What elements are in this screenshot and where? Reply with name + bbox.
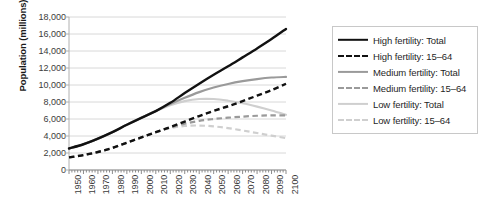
x-axis-tick-label: 2030	[188, 175, 198, 194]
x-axis-tick-label: 2100	[290, 175, 300, 194]
legend-item[interactable]: Low fertility: 15–64	[338, 112, 473, 128]
x-axis-tick-label: 2080	[261, 175, 271, 194]
x-axis-tick-label: 2040	[203, 175, 213, 194]
x-axis-tick-label: 2000	[145, 175, 155, 194]
legend-swatch-icon	[338, 98, 368, 110]
legend-swatch-icon	[338, 82, 368, 94]
x-axis-tick-label: 1970	[101, 175, 111, 194]
legend-item-label: Medium fertility: 15–64	[373, 83, 466, 94]
legend-item-label: High fertility: Total	[373, 35, 446, 46]
legend-item[interactable]: Medium fertility: 15–64	[338, 80, 473, 96]
x-axis-tick-label: 1990	[130, 175, 140, 194]
legend-item[interactable]: High fertility: Total	[338, 32, 473, 48]
legend-swatch-icon	[338, 66, 368, 78]
legend-swatch-icon	[338, 50, 368, 62]
x-axis-tick-label: 2060	[232, 175, 242, 194]
x-axis-tick-label: 2010	[159, 175, 169, 194]
x-axis-tick-label: 1980	[116, 175, 126, 194]
legend-item[interactable]: Medium fertility: Total	[338, 64, 473, 80]
x-axis-tick-label: 2090	[275, 175, 285, 194]
legend-item-label: Low fertility: Total	[373, 99, 444, 110]
x-axis-tick-label: 2020	[174, 175, 184, 194]
legend-item-label: Medium fertility: Total	[373, 67, 460, 78]
chart-legend: High fertility: TotalHigh fertility: 15–…	[332, 26, 478, 134]
legend-swatch-icon	[338, 34, 368, 46]
legend-item-label: High fertility: 15–64	[373, 51, 452, 62]
legend-item-label: Low fertility: 15–64	[373, 115, 450, 126]
x-axis-tick-label: 2050	[217, 175, 227, 194]
x-axis-tick-label: 1960	[87, 175, 97, 194]
population-projection-chart: Population (millions) 02,0004,0006,0008,…	[0, 0, 483, 214]
legend-swatch-icon	[338, 114, 368, 126]
x-axis-tick-label: 2070	[246, 175, 256, 194]
legend-item[interactable]: Low fertility: Total	[338, 96, 473, 112]
legend-item[interactable]: High fertility: 15–64	[338, 48, 473, 64]
x-axis-tick-label: 1950	[73, 175, 83, 194]
